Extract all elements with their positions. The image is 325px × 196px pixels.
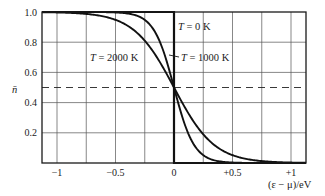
x-tick-label: −1 bbox=[52, 167, 63, 178]
y-tick-labels: 0.20.40.60.81.0 bbox=[25, 7, 38, 139]
x-tick-label: −0.5 bbox=[106, 167, 124, 178]
label-t2000: T = 2000 K bbox=[90, 52, 139, 63]
x-tick-label: +0.5 bbox=[223, 167, 241, 178]
y-tick-label: 0.4 bbox=[25, 97, 38, 108]
y-tick-label: 1.0 bbox=[25, 7, 38, 18]
x-tick-labels: −1−0.50+0.5+1 bbox=[52, 167, 297, 178]
x-tick-label: 0 bbox=[172, 167, 177, 178]
x-tick-label: +1 bbox=[286, 167, 297, 178]
y-axis-label: n̄ bbox=[12, 84, 17, 95]
label-t1000: T = 1000 K bbox=[181, 52, 230, 63]
fermi-dirac-chart: −1−0.50+0.5+1 0.20.40.60.81.0 n̄ (ε − μ)… bbox=[0, 0, 325, 196]
x-axis-label: (ε − μ)/eV bbox=[268, 179, 312, 191]
y-tick-label: 0.6 bbox=[25, 67, 38, 78]
y-tick-label: 0.2 bbox=[25, 127, 38, 138]
y-tick-label: 0.8 bbox=[25, 37, 38, 48]
label-t0: T = 0 K bbox=[178, 21, 211, 32]
